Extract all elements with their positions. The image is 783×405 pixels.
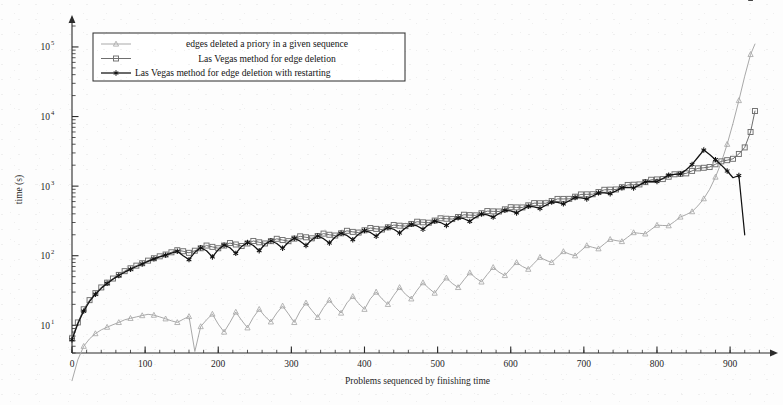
y-tick-exponent: 5 xyxy=(51,39,55,46)
y-tick-exponent: 1 xyxy=(51,318,54,325)
figure-container: 101102103104105 010020030040050060070080… xyxy=(0,0,783,405)
x-axis-title: Problems sequenced by finishing time xyxy=(345,376,490,386)
x-tick-label: 900 xyxy=(723,359,738,369)
x-axis: 0100200300400500600700800900 xyxy=(70,347,778,370)
y-tick-label: 10 xyxy=(41,112,51,122)
y-tick-exponent: 3 xyxy=(51,179,55,186)
series-1 xyxy=(72,44,755,381)
x-tick-label: 200 xyxy=(211,359,226,369)
x-tick-label: 600 xyxy=(504,359,519,369)
y-tick-exponent: 2 xyxy=(51,248,54,255)
chart-legend: edges deleted a priory in a given sequen… xyxy=(93,33,405,81)
cactus-plot: 101102103104105 010020030040050060070080… xyxy=(0,0,783,405)
y-tick-label: 10 xyxy=(41,251,51,261)
x-tick-label: 300 xyxy=(284,359,299,369)
y-axis-title: time (s) xyxy=(14,175,25,204)
data-point-marker xyxy=(70,337,75,342)
x-tick-label: 400 xyxy=(357,359,372,369)
y-axis: 101102103104105 xyxy=(41,15,79,353)
legend-label-1: edges deleted a priory in a given sequen… xyxy=(186,38,348,49)
y-tick-label: 10 xyxy=(41,321,51,331)
y-tick-label: 10 xyxy=(41,42,51,52)
y-tick-label: 10 xyxy=(41,182,51,192)
y-tick-exponent: 4 xyxy=(51,109,55,116)
series-line xyxy=(72,44,755,381)
data-point-marker xyxy=(467,219,472,224)
legend-label-2: Las Vegas method for edge deletion xyxy=(198,53,336,64)
data-point-marker xyxy=(315,233,320,238)
series-line xyxy=(72,150,745,340)
legend-label-3: Las Vegas method for edge deletion with … xyxy=(135,67,331,78)
x-tick-label: 700 xyxy=(577,359,592,369)
x-tick-label: 100 xyxy=(138,359,153,369)
x-tick-label: 500 xyxy=(430,359,445,369)
x-tick-label: 0 xyxy=(70,359,75,369)
x-tick-label: 800 xyxy=(650,359,665,369)
